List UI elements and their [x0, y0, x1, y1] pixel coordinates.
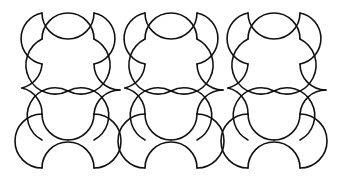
- tile-group: [15, 13, 327, 168]
- tessellation-figure: [0, 0, 348, 192]
- arc-tiling-pattern: [0, 0, 348, 192]
